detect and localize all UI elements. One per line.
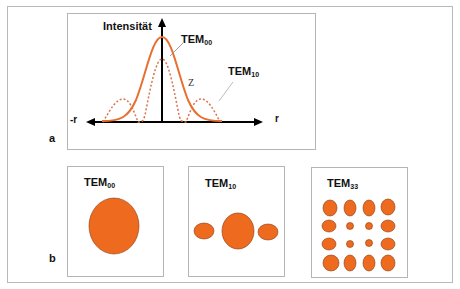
- arrow-right-icon: [254, 118, 263, 126]
- arrow-up-icon: [158, 18, 166, 27]
- diagram-graphics: [0, 0, 460, 289]
- tem00-spot-pattern: [89, 198, 139, 254]
- axes: [86, 18, 263, 126]
- tem33-spot-pattern: [322, 199, 395, 271]
- arrow-left-icon: [86, 118, 95, 126]
- leader-line-tem10: [219, 82, 233, 101]
- tem10-spot-pattern: [194, 213, 278, 249]
